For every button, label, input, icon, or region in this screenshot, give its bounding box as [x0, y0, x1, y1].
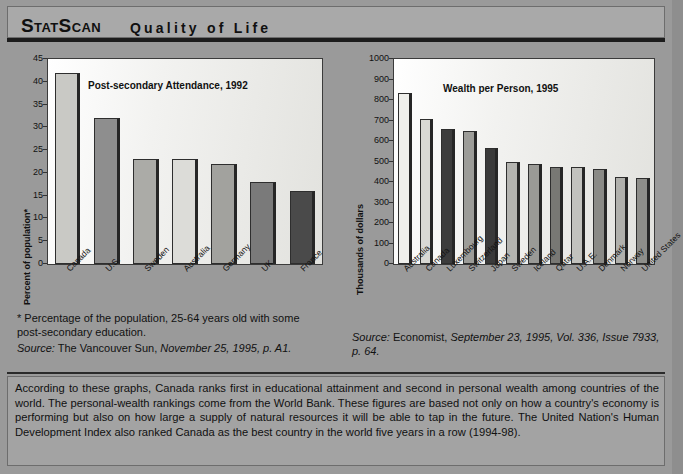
bar-u-s	[94, 118, 120, 264]
bar-australia	[172, 159, 198, 264]
chart0-y-axis-label: Percent of population*	[22, 209, 32, 305]
brand-logo: StatScan	[21, 16, 101, 36]
header-bar: StatScan Quality of Life	[7, 6, 665, 38]
bar-sweden	[133, 159, 159, 264]
bar-uk	[250, 182, 276, 264]
y-tick-label: 35	[11, 100, 43, 109]
bar-luxembourg	[441, 129, 455, 264]
y-tick-label: 0	[357, 259, 389, 268]
bar-denmark	[593, 169, 607, 264]
y-tick-label: 0	[11, 259, 43, 268]
chart0-title: Post-secondary Attendance, 1992	[88, 80, 248, 91]
left-source-italic: November 25, 1995, p. A1.	[160, 342, 291, 354]
y-tick-label: 100	[357, 239, 389, 248]
bar-australia	[398, 93, 412, 264]
y-tick-label: 45	[11, 54, 43, 63]
y-tick-label: 700	[357, 116, 389, 125]
left-source-plain: The Vancouver Sun,	[55, 342, 160, 354]
left-source: Source: The Vancouver Sun, November 25, …	[17, 341, 337, 355]
left-footnote: * Percentage of the population, 25-64 ye…	[17, 311, 327, 339]
y-tick-label: 20	[11, 168, 43, 177]
chart-post-secondary-attendance: Percent of population* 05101520253035404…	[10, 50, 330, 300]
y-tick-label: 30	[11, 122, 43, 131]
right-source-label: Source:	[352, 331, 390, 343]
y-tick-label: 25	[11, 145, 43, 154]
bar-canada	[420, 119, 434, 264]
chart-wealth-per-person: Thousands of dollars 0100200300400500600…	[345, 50, 667, 300]
summary-text: According to these graphs, Canada ranks …	[15, 381, 659, 439]
left-source-label: Source:	[17, 342, 55, 354]
y-tick-label: 800	[357, 95, 389, 104]
right-source: Source: Economist, September 23, 1995, V…	[352, 330, 664, 358]
y-tick-label: 10	[11, 213, 43, 222]
page-title: Quality of Life	[130, 19, 271, 37]
y-tick-label: 5	[11, 236, 43, 245]
bottom-divider	[7, 372, 665, 374]
header-divider	[7, 38, 665, 42]
right-source-plain: Economist,	[390, 331, 451, 343]
y-tick-label: 15	[11, 191, 43, 200]
y-tick-label: 200	[357, 218, 389, 227]
y-tick-label: 40	[11, 77, 43, 86]
y-tick-label: 900	[357, 75, 389, 84]
y-tick-label: 400	[357, 177, 389, 186]
y-tick-label: 600	[357, 136, 389, 145]
chart1-title: Wealth per Person, 1995	[443, 83, 558, 94]
left-footnote-text: * Percentage of the population, 25-64 ye…	[17, 312, 300, 338]
bar-sweden	[506, 162, 520, 264]
bar-canada	[55, 73, 81, 264]
y-tick-label: 300	[357, 198, 389, 207]
y-tick-label: 1000	[357, 54, 389, 63]
y-tick-label: 500	[357, 157, 389, 166]
bar-u-a-e	[571, 167, 585, 264]
bar-germany	[211, 164, 237, 264]
